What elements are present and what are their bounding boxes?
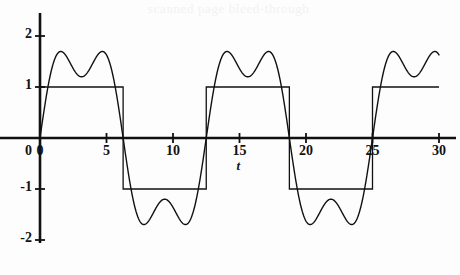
y-tick-label: 2 — [0, 26, 32, 42]
x-axis-title: t — [237, 158, 241, 174]
axes-group — [0, 13, 456, 243]
origin-label: 0 — [0, 143, 32, 159]
chart-figure: scanned page bleed-through 0510152025302… — [0, 0, 460, 275]
y-tick-label: -2 — [0, 230, 32, 246]
y-tick-label: 1 — [0, 77, 32, 93]
x-tick-label: 5 — [87, 143, 127, 159]
y-tick-label: -1 — [0, 179, 32, 195]
x-tick-label: 30 — [419, 143, 459, 159]
x-tick-label: 15 — [220, 143, 260, 159]
plot-canvas — [0, 0, 460, 275]
x-tick-label: 20 — [286, 143, 326, 159]
x-tick-label: 25 — [353, 143, 393, 159]
x-tick-label: 10 — [153, 143, 193, 159]
